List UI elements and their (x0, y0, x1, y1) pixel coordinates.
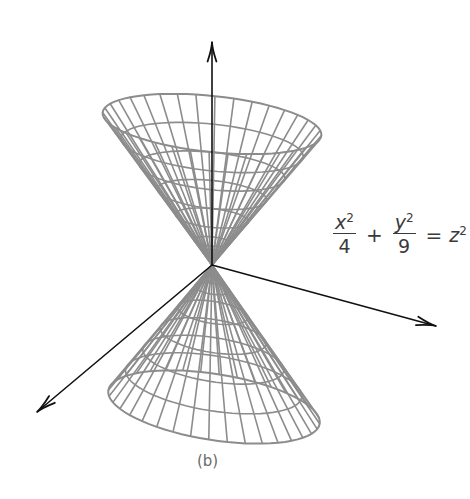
plus-sign: + (366, 223, 383, 247)
x-axis (37, 265, 212, 412)
cone-equation: x2 4 + y2 9 = z2 (330, 212, 467, 257)
equals-sign: = (426, 223, 443, 247)
denominator-9: 9 (398, 234, 410, 257)
figure-caption: (b) (197, 452, 218, 470)
rhs-z: z2 (449, 224, 467, 246)
denominator-4: 4 (338, 234, 350, 257)
fraction-x: x2 4 (333, 212, 356, 257)
lower-cone-mesh (108, 265, 319, 444)
fraction-y: y2 9 (393, 212, 416, 257)
numerator-x: x (335, 211, 346, 233)
numerator-y: y (395, 211, 406, 233)
